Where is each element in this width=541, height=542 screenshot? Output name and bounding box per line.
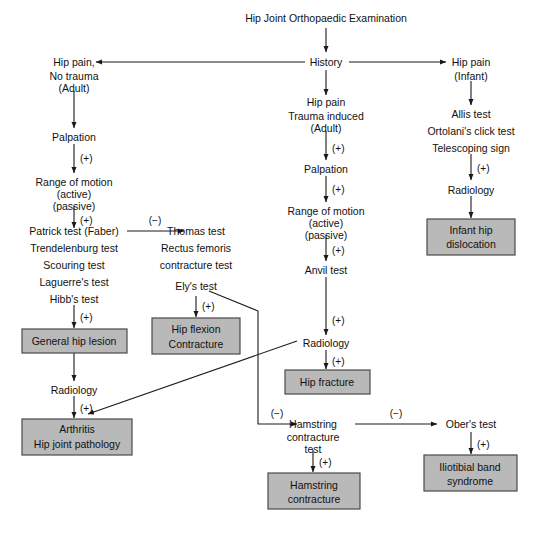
node-center-rom-line3: (passive)	[305, 229, 348, 241]
node-rectus-femoris: Rectus femoris	[161, 242, 231, 254]
node-left-entry-line3: (Adult)	[59, 82, 90, 94]
label-center-palpation-positive: (+)	[332, 184, 345, 195]
node-left-test-laguerre: Laguerre's test	[39, 276, 108, 288]
node-contracture-test: contracture test	[160, 259, 232, 271]
box-label-arthritis: Arthritis	[59, 423, 95, 435]
node-center-rom-line1: Range of motion	[287, 205, 364, 217]
box-label-infant-hip: Infant hip	[449, 224, 492, 236]
label-patrick-to-thomas-negative: (−)	[149, 215, 162, 226]
node-left-rom-line3: (passive)	[53, 200, 96, 212]
node-thomas-test: Thomas test	[167, 225, 225, 237]
node-center-entry-line2: Trauma induced	[288, 110, 364, 122]
node-left-radiology: Radiology	[51, 384, 98, 396]
node-left-rom-line1: Range of motion	[35, 176, 112, 188]
node-allis-test: Allis test	[451, 108, 490, 120]
node-left-rom-line2: (active)	[57, 188, 91, 200]
node-elys-test: Ely's test	[175, 280, 217, 292]
node-hamstring-line2: contracture	[287, 431, 340, 443]
node-center-entry-line3: (Adult)	[311, 122, 342, 134]
node-left-test-trendelenburg: Trendelenburg test	[30, 242, 118, 254]
flowchart-svg: Hip Joint Orthopaedic Examination Histor…	[0, 0, 541, 542]
label-center-radiology-positive: (+)	[332, 356, 345, 367]
node-left-palpation: Palpation	[52, 131, 96, 143]
node-obers-test: Ober's test	[446, 418, 497, 430]
node-right-entry-line1: Hip pain	[452, 56, 491, 68]
label-ober-positive: (+)	[477, 439, 490, 450]
label-hamstring-to-ober-negative: (−)	[390, 408, 403, 419]
box-label-hamstring-contracture: contracture	[288, 493, 341, 505]
box-label-hip-fracture: Hip fracture	[300, 376, 354, 388]
node-center-palpation: Palpation	[304, 163, 348, 175]
node-right-entry-line2: (Infant)	[454, 70, 487, 82]
node-right-radiology: Radiology	[448, 184, 495, 196]
node-left-test-scouring: Scouring test	[43, 259, 104, 271]
box-label-syndrome: syndrome	[447, 475, 493, 487]
box-label-general-hip-lesion: General hip lesion	[32, 335, 117, 347]
node-telescoping-sign: Telescoping sign	[432, 142, 510, 154]
edge-ely-to-hamstring	[209, 291, 297, 424]
node-root-title: Hip Joint Orthopaedic Examination	[245, 12, 407, 24]
label-center-anvil-positive: (+)	[332, 315, 345, 326]
node-left-test-patrick: Patrick test (Faber)	[29, 225, 118, 237]
box-label-hamstring: Hamstring	[290, 479, 338, 491]
label-left-radiology-positive: (+)	[80, 403, 93, 414]
node-left-entry-line2: No trauma	[49, 70, 98, 82]
label-right-tests-positive: (+)	[477, 163, 490, 174]
box-label-contracture: Contracture	[169, 338, 224, 350]
node-left-entry-line1: Hip pain,	[53, 56, 94, 68]
label-center-rom-positive: (+)	[332, 245, 345, 256]
node-left-test-hibb: Hibb's test	[50, 293, 99, 305]
label-ely-positive: (+)	[202, 301, 215, 312]
box-label-hip-joint-pathology: Hip joint pathology	[34, 438, 121, 450]
node-center-radiology: Radiology	[303, 337, 350, 349]
label-ely-to-hamstring-negative: (−)	[271, 408, 284, 419]
flowchart-canvas: Hip Joint Orthopaedic Examination Histor…	[0, 0, 541, 542]
label-hamstring-positive: (+)	[319, 457, 332, 468]
box-label-iliotibial-band: Iliotibial band	[439, 461, 500, 473]
label-left-palpation-positive: (+)	[80, 153, 93, 164]
box-label-dislocation: dislocation	[446, 238, 496, 250]
node-hamstring-line3: test	[305, 443, 322, 455]
label-center-entry-positive: (+)	[332, 143, 345, 154]
label-left-tests-positive: (+)	[80, 312, 93, 323]
node-anvil-test: Anvil test	[305, 264, 348, 276]
node-ortolani-click-test: Ortolani's click test	[427, 125, 514, 137]
node-center-entry-line1: Hip pain	[307, 96, 346, 108]
node-hamstring-line1: Hamstring	[289, 418, 337, 430]
node-history: History	[310, 56, 343, 68]
connector-layer	[74, 28, 471, 472]
node-center-rom-line2: (active)	[309, 217, 343, 229]
box-label-hip-flexion: Hip flexion	[171, 323, 220, 335]
